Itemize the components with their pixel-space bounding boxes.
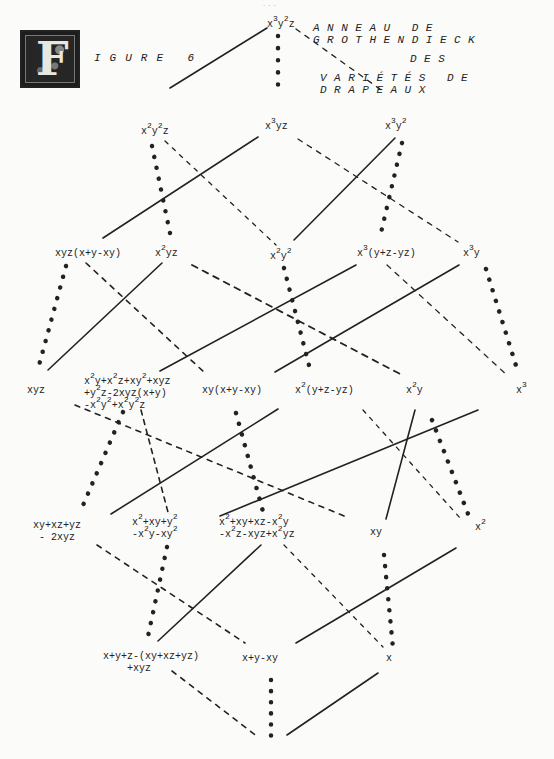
node-x-y-z-sum: x+y+z-(xy+xz+yz) +xyz (103, 651, 199, 675)
edge-n4b-n5a (147, 547, 167, 641)
edge-n1a-n2c (165, 141, 276, 245)
node-x3y2z: x3y2z (267, 19, 295, 31)
node-x2y2: x2y2 (270, 251, 292, 263)
edge-n3c-n4a (111, 409, 278, 514)
node-x2-xy-y2: x2+xy+y2 -x2y-xy2 (132, 517, 178, 541)
edge-n4c-n5c (284, 545, 383, 647)
edge-n5c-n6 (287, 673, 378, 735)
node-x3yz: x3yz (265, 121, 288, 133)
edge-n2a-n3a (38, 266, 66, 369)
edge-n3e-n4d (386, 410, 415, 519)
node-x: x (386, 653, 392, 665)
node-xy: xy (370, 527, 382, 539)
node-x2y2z: x2y2z (141, 126, 169, 138)
edge-n0-n1a (170, 28, 267, 88)
edge-n1c-n2c (294, 138, 395, 240)
node-x2yz: x2yz (155, 248, 178, 260)
node-xyz: xyz (27, 385, 45, 397)
node-x2y: x2y (406, 385, 423, 397)
edge-n2e-n3f (486, 269, 518, 372)
node-x3: x3 (516, 385, 527, 397)
node-x-y-xy: x+y-xy (242, 653, 278, 665)
node-big-polynomial: x2y+x2z+xy2+xyz +y2z-2xyz(x+y) -x2y2+x2y… (84, 376, 171, 412)
edge-n2c-n3d (284, 268, 311, 373)
edge-n1a-n2b (152, 146, 171, 238)
edge-n3b-n4b (141, 410, 169, 516)
node-x2-xy-xz: x2+xy+xz-x2y -x2z-xyz+x2yz (219, 517, 295, 541)
edge-n3d-n4e (363, 410, 461, 519)
edge-n1b-n2a (103, 137, 258, 238)
edge-n3b-n4a (81, 412, 123, 510)
edge-n5a-n6 (172, 671, 258, 737)
edge-n4c-n5a (158, 545, 261, 641)
node-xyz-x-y-xy: xyz(x+y-xy) (55, 248, 121, 260)
node-x3y2: x3y2 (385, 121, 407, 133)
node-xy-xz-yz-2xyz: xy+xz+yz - 2xyz (33, 520, 81, 544)
node-x2: x2 (475, 522, 486, 534)
edge-n3f-n4e (432, 420, 470, 519)
node-x2-y-z-yz: x2(y+z-yz) (295, 385, 354, 397)
edge-n4d-n5c (384, 555, 393, 648)
edge-n3f-n4c (220, 410, 478, 516)
edge-n1c-n2d (380, 143, 402, 237)
edge-n2d-n3b (160, 265, 356, 371)
node-x3y: x3y (463, 248, 480, 260)
node-xy-x-y-xy: xy(x+y-xy) (202, 385, 262, 397)
edge-n3b-n4d (75, 405, 349, 518)
edge-n0-n1c (296, 29, 384, 92)
node-x3-y-z-yz: x3(y+z-yz) (357, 248, 416, 260)
edge-n4e-n5b (296, 548, 456, 643)
